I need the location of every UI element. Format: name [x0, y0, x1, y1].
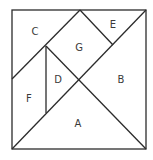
piece-label-e: E: [110, 19, 116, 30]
tangram-figure: A B C D E F G: [0, 0, 153, 160]
piece-label-g: G: [75, 42, 83, 53]
piece-label-d: D: [54, 74, 62, 85]
piece-label-b: B: [118, 74, 125, 85]
piece-label-f: F: [26, 93, 32, 104]
tangram-diagram: A B C D E F G: [0, 0, 153, 160]
piece-label-a: A: [75, 118, 82, 129]
piece-label-c: C: [32, 26, 39, 37]
